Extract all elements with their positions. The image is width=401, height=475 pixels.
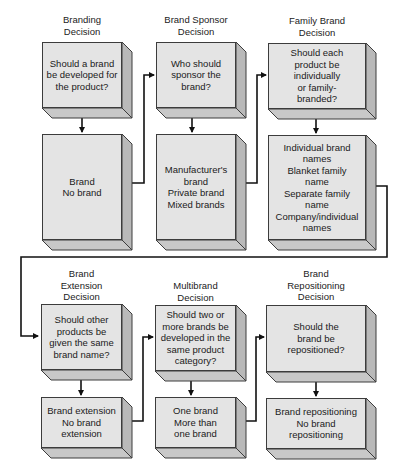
brand-repositioning-options-text: Brand repositioning No brand repositioni… [275,406,357,441]
brand-repositioning-question-box: Should the brand be repositioned? [266,305,366,372]
multibrand-question-text: Should two or more brands be developed i… [161,309,231,367]
family-brand-question-text: Should each product be individually or f… [291,47,344,105]
brand-sponsor-question-text: Who should sponsor the brand? [171,58,221,93]
branding-decision-title: Branding Decision [42,14,122,37]
multibrand-options-box: One brand More than one brand [155,397,236,448]
brand-sponsor-decision-title: Brand Sponsor Decision [146,14,246,37]
brand-extension-options-box: Brand extension No brand extension [41,397,122,448]
family-brand-decision-title: Family Brand Decision [268,15,366,38]
brand-extension-question-box: Should other products be given the same … [41,304,122,370]
brand-repositioning-options-box: Brand repositioning No brand repositioni… [266,398,366,449]
family-brand-options-text: Individual brand names Blanket family na… [276,142,359,234]
brand-extension-decision-title: Brand Extension Decision [41,268,122,303]
brand-sponsor-question-box: Who should sponsor the brand? [156,42,236,108]
brand-extension-question-text: Should other products be given the same … [49,314,113,360]
brand-repositioning-question-text: Should the brand be repositioned? [287,321,344,356]
branding-options-text: Brand No brand [62,176,101,199]
multibrand-options-text: One brand More than one brand [173,405,218,440]
family-brand-options-box: Individual brand names Blanket family na… [268,135,366,240]
multibrand-question-box: Should two or more brands be developed i… [155,305,236,371]
branding-question-box: Should a brand be developed for the prod… [42,42,122,108]
family-brand-question-box: Should each product be individually or f… [268,43,366,109]
branding-question-text: Should a brand be developed for the prod… [47,58,118,93]
brand-repositioning-decision-title: Brand Repositioning Decision [266,268,366,303]
branding-options-box: Brand No brand [42,134,122,240]
brand-sponsor-options-box: Manufacturer's brand Private brand Mixed… [156,134,236,240]
brand-sponsor-options-text: Manufacturer's brand Private brand Mixed… [165,164,228,210]
brand-extension-options-text: Brand extension No brand extension [47,405,116,440]
multibrand-decision-title: Multibrand Decision [155,280,236,303]
